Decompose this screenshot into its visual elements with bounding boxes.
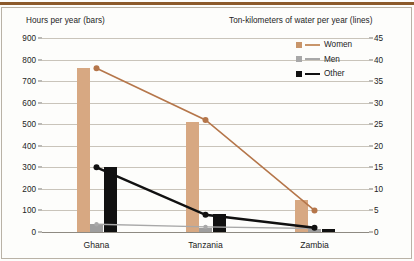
left-tick-mark: [38, 188, 42, 189]
left-tick-mark: [38, 145, 42, 146]
legend-line-icon: [305, 58, 320, 60]
line-other: [97, 167, 315, 227]
chart-legend: WomenMenOther: [296, 39, 352, 79]
right-tick-label: 35: [374, 77, 404, 86]
left-tick-mark: [38, 102, 42, 103]
right-tick-label: 10: [374, 184, 404, 193]
x-axis-label-tanzania: Tanzania: [188, 240, 222, 250]
marker-men-ghana: [94, 222, 98, 226]
right-tick-mark: [369, 145, 373, 146]
right-tick-mark: [369, 124, 373, 125]
right-tick-label: 5: [374, 206, 404, 215]
right-tick-mark: [369, 38, 373, 39]
right-tick-mark: [369, 167, 373, 168]
right-tick-label: 30: [374, 98, 404, 107]
right-tick-mark: [369, 59, 373, 60]
legend-swatch-icon: [296, 56, 302, 62]
right-tick-mark: [369, 232, 373, 233]
legend-label: Women: [324, 40, 352, 49]
left-tick-mark: [38, 210, 42, 211]
right-tick-mark: [369, 102, 373, 103]
line-women: [97, 68, 315, 210]
legend-item-other: Other: [296, 68, 352, 79]
right-tick-label: 15: [374, 163, 404, 172]
right-tick-label: 25: [374, 120, 404, 129]
top-rule-decoration: [0, 2, 414, 5]
left-tick-mark: [38, 81, 42, 82]
gridline: [42, 232, 369, 233]
left-tick-label: 700: [2, 77, 36, 86]
marker-other-zambia: [312, 225, 318, 231]
legend-line-icon: [305, 44, 320, 46]
left-tick-label: 200: [2, 184, 36, 193]
right-tick-mark: [369, 81, 373, 82]
right-tick-label: 20: [374, 141, 404, 150]
legend-label: Men: [324, 55, 340, 64]
legend-swatch-icon: [296, 42, 302, 48]
marker-other-ghana: [94, 164, 100, 170]
marker-other-tanzania: [203, 212, 209, 218]
left-tick-mark: [38, 232, 42, 233]
right-tick-mark: [369, 188, 373, 189]
right-tick-label: 0: [374, 228, 404, 237]
left-tick-mark: [38, 59, 42, 60]
left-tick-label: 400: [2, 141, 36, 150]
legend-item-women: Women: [296, 39, 352, 50]
left-tick-mark: [38, 38, 42, 39]
left-tick-label: 600: [2, 98, 36, 107]
legend-swatch-icon: [296, 71, 302, 77]
right-tick-label: 45: [374, 34, 404, 43]
left-tick-label: 100: [2, 206, 36, 215]
legend-label: Other: [324, 69, 344, 78]
marker-women-ghana: [94, 65, 100, 71]
right-tick-label: 40: [374, 55, 404, 64]
left-tick-mark: [38, 124, 42, 125]
legend-item-men: Men: [296, 54, 352, 65]
x-axis-label-zambia: Zambia: [300, 240, 329, 250]
x-axis-label-ghana: Ghana: [84, 240, 110, 250]
legend-line-icon: [305, 73, 320, 75]
left-tick-label: 500: [2, 120, 36, 129]
chart-figure: Hours per year (bars) Ton-kilometers of …: [0, 0, 414, 261]
right-tick-mark: [369, 210, 373, 211]
marker-women-zambia: [312, 207, 318, 213]
right-axis-caption: Ton-kilometers of water per year (lines): [229, 16, 373, 25]
marker-women-tanzania: [203, 117, 209, 123]
left-tick-mark: [38, 167, 42, 168]
left-tick-label: 300: [2, 163, 36, 172]
left-tick-label: 800: [2, 55, 36, 64]
marker-men-tanzania: [203, 225, 207, 229]
left-tick-label: 0: [2, 228, 36, 237]
left-tick-label: 900: [2, 34, 36, 43]
left-axis-caption: Hours per year (bars): [26, 16, 105, 25]
